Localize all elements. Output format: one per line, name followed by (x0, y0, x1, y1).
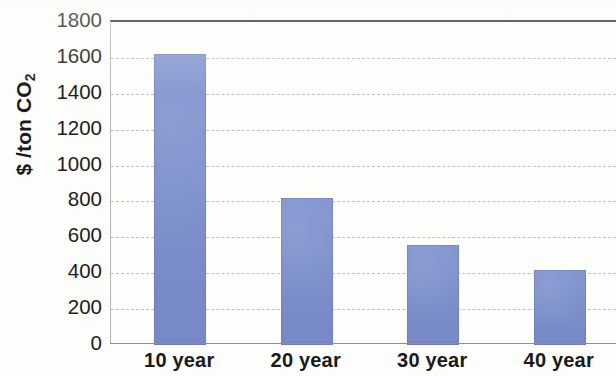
y-axis-tick-label: 1400 (36, 82, 102, 103)
plot-area (110, 20, 616, 343)
y-axis-tick-label: 600 (36, 225, 102, 246)
x-axis-tick-label: 40 year (494, 349, 616, 371)
y-axis-title: $ /ton CO2 (12, 15, 37, 235)
y-axis-tick-label: 1800 (36, 10, 102, 31)
y-axis-tick-label: 200 (36, 297, 102, 318)
y-axis-tick-label: 400 (36, 261, 102, 282)
y-axis-title-text: $ /ton CO (12, 81, 35, 175)
bar (281, 198, 333, 345)
bar (154, 54, 206, 345)
bar (534, 270, 586, 345)
x-axis-tick-label: 20 year (241, 349, 371, 371)
bar-chart: $ /ton CO2 18001600140012001000800600400… (0, 0, 616, 376)
x-axis-tick-label: 30 year (367, 349, 497, 371)
y-axis-tick-labels: 180016001400120010008006004002000 (36, 0, 102, 376)
y-axis-tick-label: 1000 (36, 154, 102, 175)
x-axis-line (110, 343, 616, 344)
bar (407, 245, 459, 345)
y-axis-tick-label: 0 (36, 333, 102, 354)
y-axis-tick-label: 1600 (36, 46, 102, 67)
y-axis-tick-label: 1200 (36, 118, 102, 139)
x-axis-tick-label: 10 year (114, 349, 244, 371)
y-axis-tick-label: 800 (36, 189, 102, 210)
